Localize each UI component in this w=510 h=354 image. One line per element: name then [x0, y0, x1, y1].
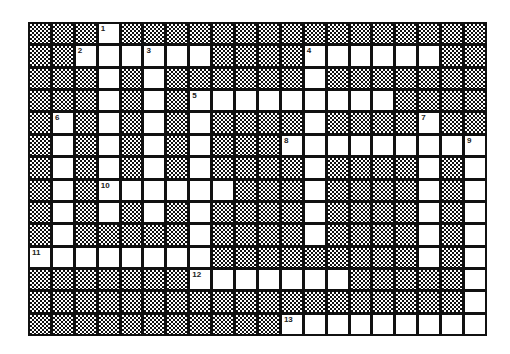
crossword-cell[interactable]: [419, 203, 439, 222]
crossword-cell[interactable]: 10: [99, 181, 119, 200]
crossword-cell[interactable]: [328, 270, 348, 289]
crossword-cell[interactable]: [305, 69, 325, 88]
crossword-cell[interactable]: [236, 91, 256, 110]
crossword-cell[interactable]: [99, 158, 119, 177]
crossword-cell[interactable]: [190, 136, 210, 155]
crossword-cell[interactable]: [167, 46, 187, 65]
crossword-cell[interactable]: [259, 270, 279, 289]
crossword-cell[interactable]: [373, 136, 393, 155]
crossword-cell[interactable]: [442, 136, 462, 155]
crossword-cell[interactable]: [190, 46, 210, 65]
crossword-cell[interactable]: [144, 113, 164, 132]
crossword-cell[interactable]: 1: [99, 24, 119, 43]
crossword-cell[interactable]: [305, 315, 325, 334]
crossword-cell[interactable]: [144, 181, 164, 200]
crossword-cell[interactable]: [53, 248, 73, 267]
crossword-cell[interactable]: [190, 181, 210, 200]
crossword-cell[interactable]: [305, 136, 325, 155]
crossword-cell[interactable]: [53, 158, 73, 177]
crossword-cell[interactable]: [419, 248, 439, 267]
crossword-cell[interactable]: [144, 69, 164, 88]
crossword-cell[interactable]: 4: [305, 46, 325, 65]
crossword-cell[interactable]: [213, 91, 233, 110]
crossword-cell[interactable]: 11: [30, 248, 50, 267]
crossword-cell[interactable]: [373, 91, 393, 110]
crossword-cell[interactable]: [190, 225, 210, 244]
crossword-cell[interactable]: [419, 136, 439, 155]
crossword-cell[interactable]: [144, 158, 164, 177]
crossword-cell[interactable]: [122, 181, 142, 200]
crossword-cell[interactable]: [465, 225, 485, 244]
crossword-cell[interactable]: [305, 203, 325, 222]
crossword-cell[interactable]: [282, 91, 302, 110]
crossword-cell[interactable]: [76, 248, 96, 267]
crossword-cell[interactable]: [122, 248, 142, 267]
crossword-cell[interactable]: [305, 225, 325, 244]
crossword-cell[interactable]: [144, 248, 164, 267]
crossword-cell[interactable]: [396, 136, 416, 155]
crossword-cell[interactable]: [465, 181, 485, 200]
crossword-cell[interactable]: 13: [282, 315, 302, 334]
crossword-cell[interactable]: [99, 113, 119, 132]
crossword-cell[interactable]: 7: [419, 113, 439, 132]
crossword-cell[interactable]: 12: [190, 270, 210, 289]
crossword-cell[interactable]: [465, 270, 485, 289]
crossword-cell[interactable]: 6: [53, 113, 73, 132]
crossword-cell[interactable]: 9: [465, 136, 485, 155]
crossword-cell[interactable]: [53, 136, 73, 155]
crossword-cell[interactable]: 8: [282, 136, 302, 155]
crossword-cell[interactable]: [419, 158, 439, 177]
crossword-cell[interactable]: [190, 248, 210, 267]
crossword-cell[interactable]: [328, 46, 348, 65]
crossword-cell[interactable]: [144, 91, 164, 110]
crossword-cell[interactable]: [99, 91, 119, 110]
crossword-cell[interactable]: [99, 69, 119, 88]
crossword-cell[interactable]: [99, 46, 119, 65]
crossword-cell[interactable]: [305, 113, 325, 132]
crossword-cell[interactable]: [465, 203, 485, 222]
crossword-cell[interactable]: [167, 248, 187, 267]
crossword-cell[interactable]: [419, 181, 439, 200]
crossword-cell[interactable]: [213, 181, 233, 200]
crossword-cell[interactable]: [213, 270, 233, 289]
crossword-cell[interactable]: [419, 315, 439, 334]
crossword-cell[interactable]: [305, 270, 325, 289]
crossword-cell[interactable]: [328, 136, 348, 155]
crossword-cell[interactable]: [144, 136, 164, 155]
crossword-cell[interactable]: [53, 203, 73, 222]
crossword-cell[interactable]: [190, 113, 210, 132]
crossword-cell[interactable]: [305, 91, 325, 110]
crossword-cell[interactable]: [144, 203, 164, 222]
crossword-cell[interactable]: [236, 270, 256, 289]
crossword-cell[interactable]: [396, 46, 416, 65]
crossword-cell[interactable]: [282, 270, 302, 289]
crossword-cell[interactable]: [465, 248, 485, 267]
crossword-cell[interactable]: [442, 315, 462, 334]
crossword-cell[interactable]: [465, 292, 485, 311]
crossword-cell[interactable]: [167, 181, 187, 200]
crossword-cell[interactable]: 5: [190, 91, 210, 110]
crossword-cell[interactable]: [465, 315, 485, 334]
crossword-cell[interactable]: [99, 248, 119, 267]
crossword-cell[interactable]: [465, 158, 485, 177]
crossword-cell[interactable]: [190, 158, 210, 177]
crossword-cell[interactable]: [373, 315, 393, 334]
crossword-cell[interactable]: [53, 225, 73, 244]
crossword-cell[interactable]: [396, 315, 416, 334]
crossword-cell[interactable]: [419, 225, 439, 244]
crossword-cell[interactable]: [351, 91, 371, 110]
crossword-cell[interactable]: [351, 136, 371, 155]
crossword-cell[interactable]: 2: [76, 46, 96, 65]
crossword-cell[interactable]: [305, 158, 325, 177]
crossword-cell[interactable]: [328, 315, 348, 334]
crossword-cell[interactable]: [259, 91, 279, 110]
crossword-cell[interactable]: [419, 46, 439, 65]
crossword-cell[interactable]: [99, 203, 119, 222]
crossword-cell[interactable]: [53, 181, 73, 200]
crossword-cell[interactable]: [190, 203, 210, 222]
crossword-cell[interactable]: [99, 136, 119, 155]
crossword-cell[interactable]: [305, 181, 325, 200]
crossword-cell[interactable]: [328, 91, 348, 110]
crossword-cell[interactable]: [351, 46, 371, 65]
crossword-cell[interactable]: [373, 46, 393, 65]
